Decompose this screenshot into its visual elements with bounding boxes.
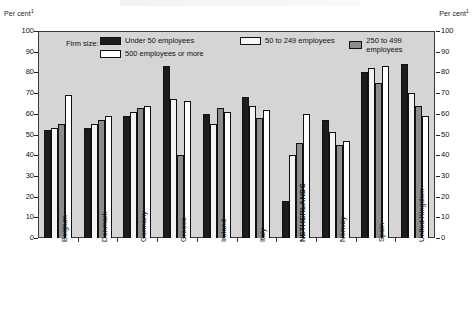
y-tick-mark-right [436,93,440,94]
bar [210,124,217,238]
legend-swatch-under-50 [100,37,121,45]
bar [361,72,368,238]
y-tick-label-right: 90 [441,48,463,56]
bar [51,128,58,238]
x-axis-label-norway: Norway [339,217,347,242]
x-axis-label-germany: Germany [140,211,148,242]
y-tick-label-right: 30 [441,172,463,180]
bar [263,110,270,238]
cropped-title-strip [120,0,360,6]
x-axis-label-spain: Spain [378,223,386,242]
x-axis-separator-tick [117,238,118,242]
bar [203,114,210,238]
y-tick-label-right: 20 [441,193,463,201]
y-axis-left-unit-label: Per cent1 [4,8,34,17]
bar [123,116,130,238]
y-tick-mark-right [436,176,440,177]
x-axis-label-belgium: Belgium [61,215,69,242]
legend-item-250-499: 250 to 499 employees [349,36,410,54]
x-axis-label-ireland: Ireland [220,219,228,242]
y-tick-label-right: 80 [441,68,463,76]
y-tick-label-right: 70 [441,89,463,97]
x-axis-separator-tick [237,238,238,242]
legend-item-500-plus: 500 employees or more [100,49,204,58]
x-axis-label-greece: Greece [180,217,188,242]
y-tick-label-left: 100 [12,27,34,35]
bar [242,97,249,238]
bar [44,130,51,238]
legend-label-under-50: Under 50 employees [125,36,194,45]
legend-label-500-plus: 500 employees or more [125,49,204,58]
y-axis-right-unit-label: Per cent1 [439,8,469,17]
y-tick-label-left: 90 [12,48,34,56]
x-axis-label-netherlands: NETHERLANDS [299,183,307,242]
bar [401,64,408,238]
bar [329,132,336,238]
x-axis-label-denmark: Denmark [101,212,109,242]
bar [282,201,289,238]
bar [289,155,296,238]
y-tick-label-left: 70 [12,89,34,97]
x-axis-separator-tick [78,238,79,242]
y-tick-label-left: 10 [12,213,34,221]
x-axis-label-united-kingdom: United Kingdom [418,189,426,242]
legend-swatch-50-249 [240,37,261,45]
y-tick-mark-right [436,114,440,115]
legend-swatch-250-499 [349,41,362,49]
legend-title: Firm size: [66,39,99,48]
y-tick-label-right: 50 [441,131,463,139]
legend-swatch-500-plus [100,50,121,58]
x-axis-label-italy: Italy [259,228,267,242]
bar [130,112,137,238]
y-tick-mark-right [436,72,440,73]
y-tick-mark-right [436,238,440,239]
bar [368,68,375,238]
y-tick-label-left: 30 [12,172,34,180]
x-axis-separator-tick [197,238,198,242]
y-tick-mark-right [436,135,440,136]
y-tick-label-left: 40 [12,151,34,159]
y-tick-label-left: 0 [12,234,34,242]
bar [84,128,91,238]
x-axis-separator-tick [356,238,357,242]
legend: Firm size: Under 50 employees50 to 249 e… [66,36,406,68]
y-tick-mark-right [436,197,440,198]
y-tick-label-right: 10 [441,213,463,221]
bar [322,120,329,238]
legend-label-50-249: 50 to 249 employees [265,36,335,45]
legend-item-under-50: Under 50 employees [100,36,194,45]
y-tick-mark-right [436,31,440,32]
y-tick-mark-left [34,238,38,239]
y-tick-label-left: 80 [12,68,34,76]
x-axis-separator-tick [276,238,277,242]
y-tick-label-right: 60 [441,110,463,118]
legend-item-50-249: 50 to 249 employees [240,36,335,45]
legend-label-250-499: 250 to 499 employees [366,36,410,54]
y-tick-mark-right [436,52,440,53]
y-tick-label-right: 40 [441,151,463,159]
bar [91,124,98,238]
chart-root: Per cent1 Per cent1 10090807060504030201… [0,0,473,315]
bar [170,99,177,238]
bar [375,83,382,238]
y-tick-label-right: 100 [441,27,463,35]
y-tick-mark-right [436,155,440,156]
x-axis-separator-tick [395,238,396,242]
bar [163,66,170,238]
bar [249,106,256,238]
bar [408,93,415,238]
y-tick-label-left: 50 [12,131,34,139]
bar [256,118,263,238]
bar [382,66,389,238]
y-tick-mark-right [436,217,440,218]
x-axis-separator-tick [316,238,317,242]
x-axis-separator-tick [157,238,158,242]
y-tick-label-right: 0 [441,234,463,242]
y-tick-label-left: 20 [12,193,34,201]
y-tick-label-left: 60 [12,110,34,118]
